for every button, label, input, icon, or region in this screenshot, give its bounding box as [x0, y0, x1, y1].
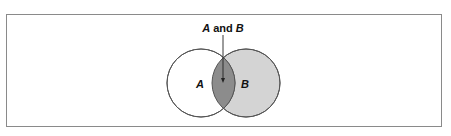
- intersection-label: A and B: [201, 22, 244, 34]
- set-a-label: A: [195, 78, 204, 90]
- set-b-label: B: [241, 78, 249, 90]
- intersection-label-set2: B: [236, 22, 244, 34]
- intersection-label-set1: A: [201, 22, 210, 34]
- intersection-label-connector: and: [210, 22, 236, 34]
- venn-diagram: A B A and B: [0, 0, 451, 136]
